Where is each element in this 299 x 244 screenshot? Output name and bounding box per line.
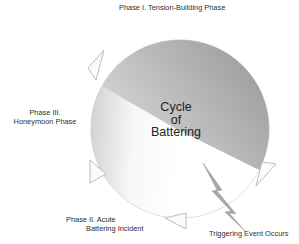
phase-3-label-line2: Honeymoon Phase	[12, 117, 78, 126]
phase-2-label-line1: Phase II. Acute	[66, 215, 144, 224]
triggering-event-label: Triggering Event Occurs	[209, 229, 288, 238]
phase-1-label: Phase I. Tension-Building Phase	[119, 3, 225, 12]
center-title: Cycle of Battering	[146, 101, 206, 139]
center-title-line3: Battering	[146, 126, 206, 139]
phase-2-label-line2: Battering Incident	[66, 224, 144, 233]
phase-3-label-line1: Phase III.	[12, 108, 78, 117]
phase-3-label: Phase III. Honeymoon Phase	[12, 108, 78, 127]
center-title-line1: Cycle	[146, 101, 206, 114]
arrow-icon-phase3-to-1	[88, 50, 104, 80]
phase-2-label: Phase II. Acute Battering Incident	[66, 215, 144, 234]
